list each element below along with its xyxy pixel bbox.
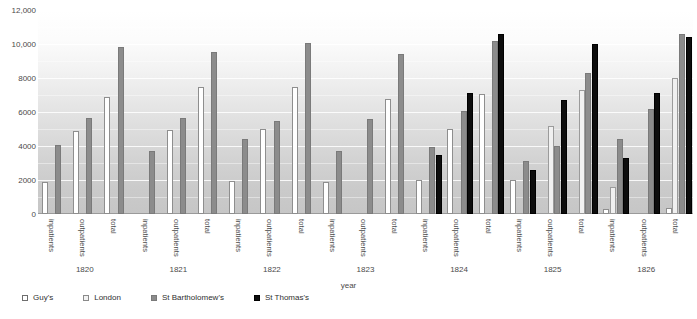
- x-axis-category-label: total: [484, 219, 493, 234]
- x-axis-year-label: 1821: [132, 265, 226, 274]
- x-axis-category-label: inpatients: [608, 219, 617, 252]
- x-axis-year-label: 1824: [412, 265, 506, 274]
- bar-guys[interactable]: [510, 180, 516, 214]
- bar-stbart[interactable]: [398, 54, 404, 214]
- x-axis-title: year: [0, 281, 697, 290]
- bar-stthomas[interactable]: [498, 34, 504, 214]
- legend-label: St Thomas's: [265, 293, 309, 302]
- bar-london[interactable]: [548, 126, 554, 214]
- year-group: [38, 10, 132, 214]
- bar-guys[interactable]: [603, 209, 609, 214]
- bar-stbart[interactable]: [523, 161, 529, 214]
- bar-chart: 0200040006000800010,00012,000 year Guy's…: [0, 0, 697, 319]
- bar-stbart[interactable]: [492, 41, 498, 214]
- bar-london[interactable]: [610, 187, 616, 214]
- legend-swatch-icon: [151, 295, 157, 301]
- bar-stbart[interactable]: [305, 43, 311, 214]
- bar-guys[interactable]: [323, 182, 329, 214]
- year-group: [412, 10, 506, 214]
- x-axis-category-label: inpatients: [47, 219, 56, 252]
- bar-stbart[interactable]: [118, 47, 124, 214]
- bar-guys[interactable]: [447, 129, 453, 214]
- y-axis-tick-label: 4000: [0, 142, 36, 151]
- legend-item-stthomas[interactable]: St Thomas's: [254, 293, 309, 302]
- category-group: [350, 10, 381, 214]
- bar-stbart[interactable]: [367, 119, 373, 214]
- x-axis-category-label: inpatients: [328, 219, 337, 252]
- bar-stbart[interactable]: [274, 121, 280, 214]
- category-group: [599, 10, 630, 214]
- bar-stbart[interactable]: [617, 139, 623, 214]
- bar-stbart[interactable]: [86, 118, 92, 214]
- bar-stthomas[interactable]: [592, 44, 598, 214]
- bar-stthomas[interactable]: [686, 37, 692, 214]
- y-axis-tick-label: 2000: [0, 176, 36, 185]
- bar-stbart[interactable]: [242, 139, 248, 214]
- category-group: [163, 10, 194, 214]
- plot-area: [38, 10, 693, 214]
- bar-guys[interactable]: [666, 208, 672, 214]
- bar-stbart[interactable]: [336, 151, 342, 214]
- bar-stthomas[interactable]: [436, 155, 442, 215]
- bar-guys[interactable]: [167, 130, 173, 214]
- x-axis-category-label: total: [109, 219, 118, 234]
- bar-guys[interactable]: [42, 182, 48, 214]
- category-group: [225, 10, 256, 214]
- bar-stbart[interactable]: [149, 151, 155, 214]
- bar-guys[interactable]: [229, 181, 235, 214]
- category-group: [506, 10, 537, 214]
- bar-london[interactable]: [672, 78, 678, 214]
- legend-swatch-icon: [22, 295, 28, 301]
- legend-label: Guy's: [33, 293, 53, 302]
- category-group: [381, 10, 412, 214]
- bar-guys[interactable]: [292, 87, 298, 214]
- legend-label: London: [94, 293, 121, 302]
- category-group: [412, 10, 443, 214]
- legend-item-stbart[interactable]: St Bartholomew's: [151, 293, 224, 302]
- bar-london[interactable]: [579, 90, 585, 214]
- category-group: [194, 10, 225, 214]
- bar-stbart[interactable]: [679, 34, 685, 214]
- category-group: [537, 10, 568, 214]
- bar-guys[interactable]: [260, 129, 266, 214]
- bar-stbart[interactable]: [554, 146, 560, 214]
- x-axis-category-label: total: [203, 219, 212, 234]
- bar-guys[interactable]: [73, 131, 79, 214]
- y-axis: 0200040006000800010,00012,000: [0, 0, 36, 319]
- x-axis-year-label: 1822: [225, 265, 319, 274]
- x-axis-category-label: total: [390, 219, 399, 234]
- bar-guys[interactable]: [198, 87, 204, 215]
- bar-guys[interactable]: [104, 97, 110, 214]
- bar-stthomas[interactable]: [654, 93, 660, 214]
- bar-stbart[interactable]: [55, 145, 61, 214]
- bar-stbart[interactable]: [648, 109, 654, 214]
- legend-swatch-icon: [83, 295, 89, 301]
- legend-item-guys[interactable]: Guy's: [22, 293, 53, 302]
- x-axis-category-label: inpatients: [141, 219, 150, 252]
- bar-guys[interactable]: [479, 94, 485, 214]
- bar-guys[interactable]: [385, 99, 391, 214]
- category-group: [443, 10, 474, 214]
- bar-stbart[interactable]: [180, 118, 186, 214]
- x-axis-category-label: outpatients: [78, 219, 87, 257]
- y-axis-tick-label: 0: [0, 210, 36, 219]
- x-axis-category-label: outpatients: [640, 219, 649, 257]
- legend-item-london[interactable]: London: [83, 293, 121, 302]
- bar-stbart[interactable]: [585, 73, 591, 214]
- x-axis-category-label: inpatients: [515, 219, 524, 252]
- bar-stbart[interactable]: [429, 147, 435, 214]
- year-group: [225, 10, 319, 214]
- bar-stthomas[interactable]: [467, 93, 473, 214]
- category-group: [319, 10, 350, 214]
- x-axis-category-label: outpatients: [265, 219, 274, 257]
- y-axis-tick-label: 10,000: [0, 40, 36, 49]
- category-group: [256, 10, 287, 214]
- bar-stthomas[interactable]: [561, 100, 567, 214]
- category-group: [662, 10, 693, 214]
- bar-stbart[interactable]: [461, 111, 467, 214]
- bar-stbart[interactable]: [211, 52, 217, 214]
- bar-guys[interactable]: [416, 180, 422, 214]
- bar-stthomas[interactable]: [623, 158, 629, 214]
- category-group: [132, 10, 163, 214]
- bar-stthomas[interactable]: [530, 170, 536, 214]
